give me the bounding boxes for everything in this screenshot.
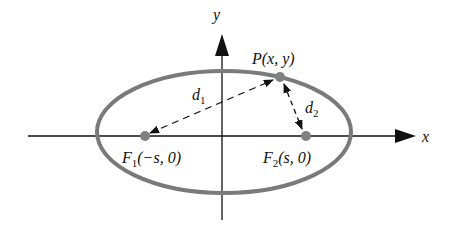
focus-1-label: F1(−s, 0) xyxy=(121,149,181,169)
focus-1-point xyxy=(140,131,150,141)
focus-2-label: F2(s, 0) xyxy=(262,149,311,169)
y-axis-arrow-icon xyxy=(215,34,229,56)
point-p xyxy=(275,72,285,82)
d2-label: d2 xyxy=(305,99,319,119)
ellipse-curve xyxy=(97,71,351,193)
d1-label: d1 xyxy=(192,86,206,106)
y-axis-label: y xyxy=(211,6,221,24)
point-p-label: P(x, y) xyxy=(251,50,295,68)
x-axis-arrow-icon xyxy=(395,129,416,143)
x-axis-label: x xyxy=(421,128,429,145)
ellipse-diagram: y x P(x, y) d1 d2 F1(−s, 0) F2(s, 0) xyxy=(0,0,453,234)
focus-2-point xyxy=(301,131,311,141)
distance-d2-line xyxy=(284,84,302,129)
distance-d1-line xyxy=(150,80,273,133)
